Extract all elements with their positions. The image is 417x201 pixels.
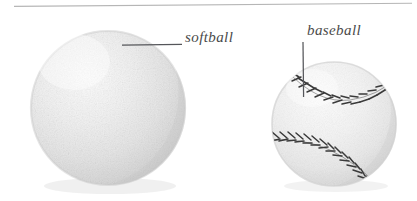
softball-group	[31, 31, 186, 194]
softball-leader-line	[122, 44, 182, 45]
baseball-group	[271, 62, 399, 192]
horizontal-rule	[14, 3, 412, 6]
baseball-leader-line	[303, 42, 304, 97]
baseball-specular-highlight	[286, 69, 338, 107]
figure-softball-baseball: softball baseball	[0, 0, 417, 201]
softball-specular-highlight	[38, 34, 110, 90]
softball-label: softball	[185, 30, 233, 45]
baseball-label: baseball	[307, 23, 361, 38]
